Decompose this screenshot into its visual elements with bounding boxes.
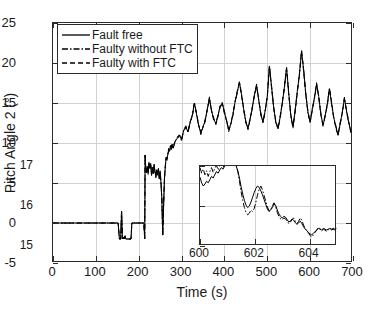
inset-series-group [200,166,337,246]
inset-x-tick-label: 604 [287,247,331,259]
inset-y-tick-label: 16 [20,199,33,211]
inset-y-tick-label: 15 [20,239,33,251]
y-tick-label: -5 [4,256,16,269]
x-tick-mark [224,256,225,261]
legend-line-sample [61,29,91,41]
legend-item-2[interactable]: Faulty without FTC [61,42,193,56]
legend-item-label: Fault free [92,29,143,41]
x-tick-mark [224,23,225,28]
inset-y-tick-mark [200,206,205,207]
x-tick-label: 700 [327,265,373,278]
legend-line-sample [61,43,91,55]
inset-x-tick-label: 600 [177,247,221,259]
legend-box[interactable]: Fault freeFaulty without FTCFaulty with … [57,24,198,74]
inset-x-tick-mark [310,239,311,244]
y-tick-label: 0 [9,216,16,229]
y-tick-mark [53,143,58,144]
inset-x-tick-label: 602 [232,247,276,259]
inset-y-tick-mark [200,166,205,167]
inset-y-tick-label: 17 [20,159,33,171]
x-tick-mark [353,256,354,261]
x-tick-mark [139,256,140,261]
y-axis-title-wrap: Pitch Angle 2 (°) [14,142,15,143]
figure-canvas: 2520151050-5 0100200300400500600700 Pitc… [0,0,373,313]
inset-x-tick-mark [200,239,201,244]
inset-series-line-2 [200,166,336,237]
y-tick-mark [346,63,351,64]
legend-item-1[interactable]: Fault free [61,28,193,42]
x-tick-mark [310,23,311,28]
y-tick-mark [53,103,58,104]
x-tick-mark [53,23,54,28]
inset-x-tick-mark [255,239,256,244]
legend-item-3[interactable]: Faulty with FTC [61,56,193,70]
y-tick-mark [53,223,58,224]
legend-line-sample [61,57,91,69]
y-tick-mark [346,223,351,224]
x-tick-mark [96,256,97,261]
x-axis-title: Time (s) [52,284,352,300]
inset-plot-axes [199,165,336,245]
y-tick-mark [346,183,351,184]
x-tick-mark [353,23,354,28]
x-tick-mark [267,23,268,28]
y-tick-label: 20 [2,56,16,69]
y-tick-mark [346,23,351,24]
y-tick-label: 25 [2,16,16,29]
legend-item-label: Faulty without FTC [92,43,193,55]
legend-item-label: Faulty with FTC [92,57,176,69]
inset-series-line-1 [200,166,336,235]
y-tick-mark [346,103,351,104]
y-tick-mark [53,183,58,184]
x-tick-mark [53,256,54,261]
y-axis-title: Pitch Angle 2 (°) [2,92,18,193]
y-tick-mark [346,143,351,144]
